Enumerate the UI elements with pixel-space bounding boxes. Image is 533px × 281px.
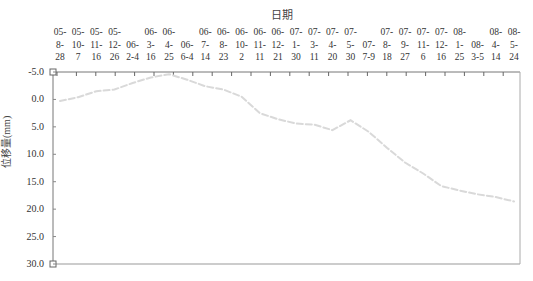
plot-area: [0, 0, 533, 281]
axes: [50, 69, 520, 267]
data-series: [60, 74, 514, 201]
